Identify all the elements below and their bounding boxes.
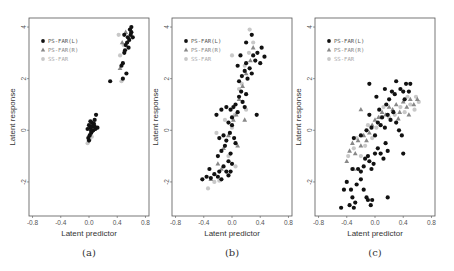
marker-circle xyxy=(121,77,125,81)
marker-circle xyxy=(226,159,230,163)
marker-circle xyxy=(245,77,249,81)
y-tick-label: 2 xyxy=(163,76,170,80)
marker-circle xyxy=(383,126,387,130)
y-axis-label: Latent response xyxy=(8,88,17,146)
marker-circle xyxy=(247,51,251,55)
marker-circle xyxy=(129,33,133,37)
plot-frame xyxy=(315,18,435,216)
marker-circle xyxy=(253,58,257,62)
marker-circle xyxy=(345,180,349,184)
marker-circle xyxy=(258,61,262,65)
marker-circle xyxy=(393,92,397,96)
panel-caption: (a) xyxy=(82,247,96,258)
legend-circle-icon xyxy=(184,57,188,61)
marker-circle xyxy=(233,164,237,168)
x-tick-label: -0.4 xyxy=(198,219,210,226)
marker-circle xyxy=(93,124,97,128)
marker-circle xyxy=(216,175,220,179)
marker-circle xyxy=(243,69,247,73)
y-tick-label: -2 xyxy=(306,179,313,185)
marker-circle xyxy=(251,40,255,44)
marker-circle xyxy=(403,110,407,114)
marker-circle xyxy=(388,118,392,122)
x-axis-label: Latent predictor xyxy=(61,229,117,238)
x-tick-label: 0.4 xyxy=(399,219,408,226)
marker-circle xyxy=(386,113,390,117)
marker-circle xyxy=(232,136,236,140)
x-tick-label: -0.8 xyxy=(27,219,39,226)
marker-circle xyxy=(240,74,244,78)
x-tick-label: -0.8 xyxy=(170,219,182,226)
panel-caption: (c) xyxy=(368,247,382,258)
marker-circle xyxy=(346,154,350,158)
x-tick-label: 0.8 xyxy=(141,219,150,226)
y-tick-label: 2 xyxy=(306,76,313,80)
legend-label: PS-FAR(L) xyxy=(334,38,364,44)
y-tick-label: 4 xyxy=(306,25,313,29)
marker-circle xyxy=(386,195,390,199)
legend-label: SS-FAR xyxy=(334,56,355,62)
marker-circle xyxy=(367,113,371,117)
x-tick-label: 0.4 xyxy=(256,219,265,226)
marker-circle xyxy=(228,151,232,155)
marker-circle xyxy=(226,120,230,124)
x-tick-label: -0.8 xyxy=(313,219,325,226)
marker-circle xyxy=(379,123,383,127)
marker-circle xyxy=(217,136,221,140)
marker-circle xyxy=(394,79,398,83)
marker-circle xyxy=(206,186,210,190)
marker-circle xyxy=(398,105,402,109)
marker-circle xyxy=(93,118,97,122)
marker-circle xyxy=(243,105,247,109)
marker-circle xyxy=(362,188,366,192)
scatter-panel-b: -0.8-0.40.00.40.8-2024Latent predictorLa… xyxy=(151,18,293,258)
marker-circle xyxy=(236,64,240,68)
marker-circle xyxy=(380,115,384,119)
legend-label: PS-FAR(L) xyxy=(191,38,221,44)
marker-circle xyxy=(127,38,131,42)
marker-circle xyxy=(352,136,356,140)
marker-circle xyxy=(403,97,407,101)
marker-circle xyxy=(386,149,390,153)
marker-circle xyxy=(226,173,230,177)
marker-circle xyxy=(233,102,237,106)
y-tick-label: 2 xyxy=(20,76,27,80)
marker-circle xyxy=(350,167,354,171)
marker-circle xyxy=(255,113,259,117)
marker-circle xyxy=(359,154,363,158)
marker-circle xyxy=(381,157,385,161)
marker-circle xyxy=(366,198,370,202)
marker-circle xyxy=(237,79,241,83)
marker-circle xyxy=(217,169,221,173)
marker-circle xyxy=(364,128,368,132)
marker-circle xyxy=(224,139,228,143)
marker-circle xyxy=(230,115,234,119)
marker-circle xyxy=(214,131,218,135)
legend-label: PS-FAR(R) xyxy=(48,47,78,53)
marker-circle xyxy=(366,154,370,158)
marker-circle xyxy=(367,82,371,86)
marker-circle xyxy=(376,146,380,150)
y-axis-label: Latent response xyxy=(151,88,160,146)
marker-circle xyxy=(244,40,248,44)
legend-label: PS-FAR(R) xyxy=(334,47,364,53)
marker-circle xyxy=(394,120,398,124)
marker-circle xyxy=(223,118,227,122)
marker-circle xyxy=(214,113,218,117)
marker-circle xyxy=(219,149,223,153)
marker-circle xyxy=(89,128,93,132)
x-axis-label: Latent predictor xyxy=(204,229,260,238)
x-axis-label: Latent predictor xyxy=(347,229,403,238)
marker-circle xyxy=(219,177,223,181)
marker-circle xyxy=(94,113,98,117)
marker-circle xyxy=(367,159,371,163)
marker-circle xyxy=(108,79,112,83)
x-tick-label: 0.0 xyxy=(370,219,379,226)
y-tick-label: 0 xyxy=(306,128,313,132)
marker-circle xyxy=(209,176,213,180)
marker-circle xyxy=(349,188,353,192)
y-tick-label: 0 xyxy=(163,128,170,132)
marker-circle xyxy=(212,172,216,176)
marker-circle xyxy=(248,66,252,70)
marker-circle xyxy=(373,151,377,155)
